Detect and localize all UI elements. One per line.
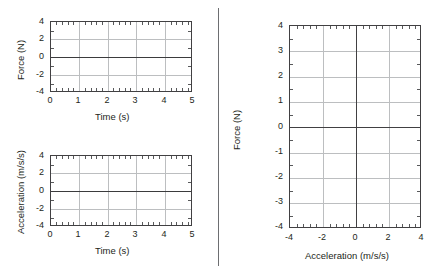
minor-tick <box>68 156 69 159</box>
minor-tick <box>188 218 191 219</box>
minor-tick <box>343 224 344 227</box>
minor-tick <box>102 222 103 225</box>
minor-tick <box>148 222 149 225</box>
chart-force-vs-acceleration-xtick-4: 4 <box>411 233 431 242</box>
gridline-y-neg2 <box>290 178 420 179</box>
chart-force-vs-acceleration-xtick-0: 0 <box>345 233 365 242</box>
minor-tick <box>159 22 160 25</box>
chart-force-vs-acceleration-ytick-4: 4 <box>263 21 283 30</box>
minor-tick <box>417 39 420 40</box>
chart-acceleration-vs-time: Acceleration (m/s/s) 4 2 0 -2 -4 <box>0 134 218 266</box>
gridline-y-2 <box>290 77 420 78</box>
minor-tick <box>182 222 183 225</box>
minor-tick <box>188 88 189 91</box>
minor-tick <box>316 26 317 29</box>
minor-tick <box>188 165 191 166</box>
minor-tick <box>310 224 311 227</box>
minor-tick <box>85 156 86 159</box>
minor-tick <box>102 88 103 91</box>
gridline-y-2 <box>51 173 191 174</box>
minor-tick <box>56 156 57 159</box>
gridline-y-2 <box>51 39 191 40</box>
minor-tick <box>125 156 126 159</box>
chart-acceleration-vs-time-xtick-3: 3 <box>125 230 145 239</box>
minor-tick <box>415 26 416 29</box>
minor-tick <box>176 88 177 91</box>
minor-tick <box>409 26 410 29</box>
minor-tick <box>343 26 344 29</box>
minor-tick <box>188 66 191 67</box>
minor-tick <box>119 22 120 25</box>
minor-tick <box>148 156 149 159</box>
minor-tick <box>73 156 74 159</box>
chart-acceleration-vs-time-xtick-1: 1 <box>68 230 88 239</box>
minor-tick <box>113 222 114 225</box>
minor-tick <box>290 39 293 40</box>
gridline-y-neg3 <box>290 203 420 204</box>
minor-tick <box>96 156 97 159</box>
chart-acceleration-vs-time-ytick-neg4: -4 <box>24 221 44 230</box>
minor-tick <box>62 156 63 159</box>
minor-tick <box>188 222 189 225</box>
chart-force-vs-time-ytick-0: 0 <box>24 52 44 61</box>
chart-force-vs-time: Force (N) 4 2 0 -2 -4 <box>0 0 218 130</box>
chart-force-vs-time-ytick-4: 4 <box>24 17 44 26</box>
minor-tick <box>417 216 420 217</box>
minor-tick <box>113 22 114 25</box>
minor-tick <box>396 26 397 29</box>
chart-force-vs-time-xtick-0: 0 <box>40 96 60 105</box>
minor-tick <box>310 26 311 29</box>
minor-tick <box>125 22 126 25</box>
chart-acceleration-vs-time-xtick-0: 0 <box>40 230 60 239</box>
minor-tick <box>290 64 293 65</box>
minor-tick <box>148 22 149 25</box>
minor-tick <box>303 26 304 29</box>
minor-tick <box>119 88 120 91</box>
gridline-y-1 <box>290 102 420 103</box>
chart-force-vs-acceleration-ytick-1: 1 <box>263 96 283 105</box>
chart-acceleration-vs-time-ytick-0: 0 <box>24 186 44 195</box>
gridline-y-neg2 <box>51 209 191 210</box>
minor-tick <box>56 22 57 25</box>
gridline-y-neg1 <box>290 153 420 154</box>
minor-tick <box>102 22 103 25</box>
chart-acceleration-vs-time-xlabel: Time (s) <box>95 246 129 256</box>
right-panel: Force (N) 4 3 2 1 0 -1 -2 -3 -4 <box>219 0 439 275</box>
minor-tick <box>62 22 63 25</box>
minor-tick <box>91 88 92 91</box>
minor-tick <box>188 156 189 159</box>
minor-tick <box>51 48 54 49</box>
chart-force-vs-acceleration: Force (N) 4 3 2 1 0 -1 -2 -3 -4 <box>219 0 439 275</box>
minor-tick <box>142 22 143 25</box>
minor-tick <box>417 89 420 90</box>
minor-tick <box>188 22 189 25</box>
data-series-force <box>51 57 191 58</box>
minor-tick <box>188 31 191 32</box>
minor-tick <box>153 222 154 225</box>
minor-tick <box>73 22 74 25</box>
minor-tick <box>171 222 172 225</box>
minor-tick <box>402 26 403 29</box>
minor-tick <box>51 200 54 201</box>
minor-tick <box>402 224 403 227</box>
minor-tick <box>68 222 69 225</box>
minor-tick <box>56 222 57 225</box>
minor-tick <box>85 222 86 225</box>
minor-tick <box>56 88 57 91</box>
minor-tick <box>336 224 337 227</box>
chart-force-vs-acceleration-plot-area <box>289 25 421 228</box>
chart-force-vs-time-xlabel: Time (s) <box>95 112 129 122</box>
minor-tick <box>297 26 298 29</box>
minor-tick <box>363 26 364 29</box>
minor-tick <box>91 22 92 25</box>
minor-tick <box>290 89 293 90</box>
axis-zero-vertical <box>356 26 357 227</box>
minor-tick <box>369 224 370 227</box>
chart-force-vs-time-ytick-2: 2 <box>24 34 44 43</box>
chart-force-vs-acceleration-ytick-2: 2 <box>263 71 283 80</box>
minor-tick <box>303 224 304 227</box>
minor-tick <box>176 156 177 159</box>
minor-tick <box>51 165 54 166</box>
chart-force-vs-time-xtick-4: 4 <box>154 96 174 105</box>
minor-tick <box>171 156 172 159</box>
